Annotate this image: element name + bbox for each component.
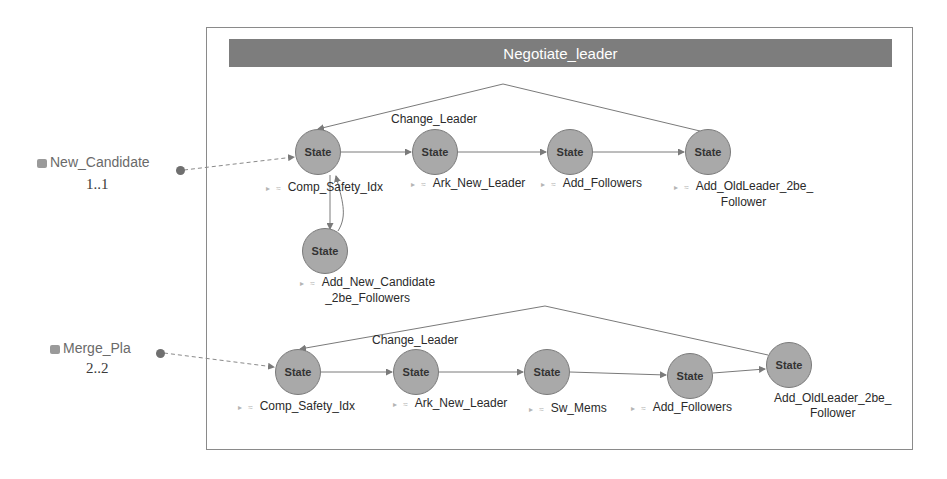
state-label: ▸ ≈Add_New_Candidate_2be_Followers (300, 275, 435, 306)
state-label: ▸ ≈Sw_Mems (529, 401, 607, 417)
state-label: ▸ ≈Ark_New_Leader (411, 176, 525, 192)
port-new-candidate-connector (184, 157, 294, 170)
transition-b-followers-to-oldleader[interactable] (713, 369, 765, 373)
state-label: ▸ ≈Add_OldLeader_2be_Follower (674, 179, 813, 210)
transition-change-leader-top[interactable] (318, 84, 700, 131)
port-icon (37, 159, 47, 168)
state-label: ▸ ≈Comp_Safety_Idx (266, 180, 383, 196)
state-b-ark-new-leader[interactable]: State (393, 349, 439, 395)
change-leader-label-bottom: Change_Leader (372, 333, 458, 347)
state-b-add-oldleader-2be-follower[interactable]: State (766, 342, 812, 388)
state-add-new-candidate-2be-followers[interactable]: State (302, 228, 348, 274)
port-new-candidate[interactable]: New_Candidate (37, 154, 150, 170)
state-comp-safety-idx[interactable]: State (295, 129, 341, 175)
port-new-candidate-anchor[interactable] (176, 166, 185, 175)
state-label: Add_OldLeader_2be_Follower (774, 391, 891, 421)
state-label: ▸ ≈Add_Followers (631, 400, 732, 416)
change-leader-label-top: Change_Leader (391, 112, 477, 126)
port-merge-pla-connector (164, 353, 274, 367)
state-b-comp-safety-idx[interactable]: State (275, 349, 321, 395)
state-add-followers[interactable]: State (547, 129, 593, 175)
port-merge-pla-anchor[interactable] (156, 349, 165, 358)
state-b-sw-mems[interactable]: State (524, 349, 570, 395)
state-ark-new-leader[interactable]: State (412, 129, 458, 175)
port-merge-pla-multiplicity: 2..2 (86, 360, 109, 377)
state-label: ▸ ≈Add_Followers (541, 176, 642, 192)
state-label: ▸ ≈Comp_Safety_Idx (238, 399, 355, 415)
state-label: ▸ ≈Ark_New_Leader (393, 396, 507, 412)
port-merge-pla[interactable]: Merge_Pla (50, 340, 131, 356)
port-new-candidate-multiplicity: 1..1 (86, 176, 109, 193)
state-b-add-followers[interactable]: State (667, 353, 713, 399)
transition-b-swmems-to-followers[interactable] (570, 372, 666, 375)
port-icon (50, 345, 60, 354)
state-add-oldleader-2be-follower[interactable]: State (685, 129, 731, 175)
transition-change-leader-bottom[interactable] (300, 306, 768, 355)
